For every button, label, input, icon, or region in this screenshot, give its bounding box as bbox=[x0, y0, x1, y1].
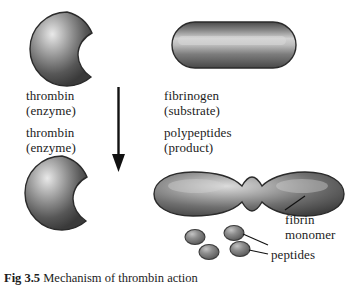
thrombin-enzyme-sphere-top bbox=[30, 12, 92, 86]
label-thrombin-top-role: (enzyme) bbox=[26, 103, 76, 118]
label-polypeptides-role: (product) bbox=[164, 140, 213, 155]
label-fibrinogen-name: fibrinogen bbox=[164, 88, 219, 103]
peptide-oval-4 bbox=[230, 242, 250, 257]
figure-thrombin-mechanism: thrombin (enzyme) thrombin (enzyme) fibr… bbox=[0, 0, 350, 287]
label-thrombin-bottom-role: (enzyme) bbox=[26, 140, 76, 155]
figure-caption-text: Mechanism of thrombin action bbox=[43, 271, 197, 285]
thrombin-enzyme-sphere-bottom bbox=[25, 156, 87, 230]
peptide-ovals bbox=[185, 226, 250, 260]
fibrin-monomer-lobed-shape bbox=[154, 172, 344, 216]
figure-caption: Fig 3.5 Mechanism of thrombin action bbox=[4, 271, 198, 285]
label-thrombin-bottom-name: thrombin bbox=[26, 125, 74, 140]
label-fibrinogen-role: (substrate) bbox=[164, 103, 220, 118]
label-thrombin-top-name: thrombin bbox=[26, 88, 74, 103]
label-fibrin-line2: monomer bbox=[285, 227, 336, 242]
peptide-oval-2 bbox=[224, 226, 244, 241]
peptides-leader-line-lower bbox=[249, 250, 268, 254]
peptide-oval-3 bbox=[199, 245, 219, 260]
label-polypeptides-name: polypeptides bbox=[164, 125, 232, 140]
fibrinogen-capsule bbox=[172, 22, 296, 68]
reaction-arrow-down-icon bbox=[112, 87, 125, 172]
figure-caption-label: Fig 3.5 bbox=[4, 271, 40, 285]
label-fibrin-line1: fibrin bbox=[285, 212, 314, 227]
peptide-oval-1 bbox=[185, 230, 205, 245]
label-peptides: peptides bbox=[271, 247, 315, 262]
